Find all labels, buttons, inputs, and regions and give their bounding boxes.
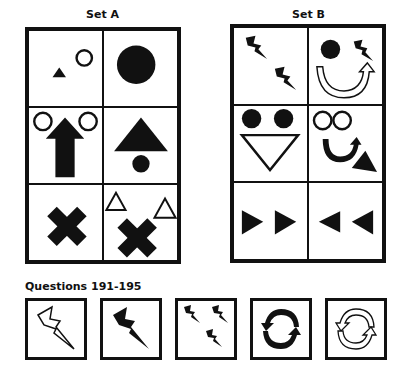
question-193[interactable] (175, 298, 237, 360)
circles-down-triangle-icon (234, 106, 307, 182)
set-b-cell-4 (308, 105, 383, 183)
triangle-circle-icon (29, 31, 102, 106)
circle-lightning-arrow-icon (309, 28, 382, 104)
set-a-cell-1 (28, 30, 103, 107)
two-lightning-icon (234, 28, 307, 104)
large-circle-icon (104, 31, 177, 106)
question-194[interactable] (250, 298, 312, 360)
set-b-cell-5 (233, 182, 308, 260)
x-triangles-icon (104, 185, 177, 260)
black-lightning-icon (103, 301, 159, 357)
set-b-cell-2 (308, 27, 383, 105)
set-a-grid (25, 27, 181, 264)
set-a-cell-3 (28, 107, 103, 184)
arrow-circles-icon (29, 108, 102, 183)
set-a-cell-4 (103, 107, 178, 184)
question-192[interactable] (100, 298, 162, 360)
three-lightning-icon (178, 301, 234, 357)
set-b-cell-3 (233, 105, 308, 183)
set-b-grid (230, 24, 386, 263)
questions-title: Questions 191-195 (25, 280, 141, 293)
black-circular-arrows-icon (253, 301, 309, 357)
question-195[interactable] (325, 298, 387, 360)
set-a-cell-6 (103, 184, 178, 261)
white-circular-arrows-icon (328, 301, 384, 357)
set-a-cell-5 (28, 184, 103, 261)
set-b-cell-6 (308, 182, 383, 260)
set-b-title: Set B (292, 8, 325, 21)
question-191[interactable] (25, 298, 87, 360)
set-b-cell-1 (233, 27, 308, 105)
white-lightning-icon (28, 301, 84, 357)
two-right-triangles-icon (234, 183, 307, 259)
x-mark-icon (29, 185, 102, 260)
two-left-triangles-icon (309, 183, 382, 259)
set-a-title: Set A (86, 8, 119, 21)
triangle-dot-icon (104, 108, 177, 183)
circles-arrow-triangle-icon (309, 106, 382, 182)
set-a-cell-2 (103, 30, 178, 107)
